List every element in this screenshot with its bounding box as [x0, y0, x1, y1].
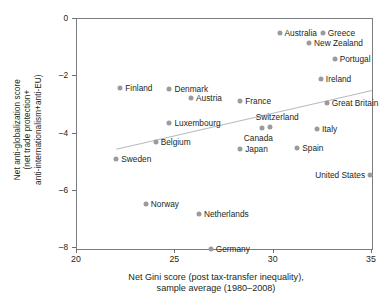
x-axis-tick-label: 25: [169, 254, 179, 264]
x-axis-ticks: 20253035: [0, 0, 387, 307]
x-axis-tick-label: 30: [268, 254, 278, 264]
scatter-plot-figure: Net anti-globalization score (net trade …: [0, 0, 387, 307]
x-axis-tick-mark: [371, 249, 372, 253]
x-axis-tick-mark: [76, 249, 77, 253]
x-axis-tick-label: 35: [366, 254, 376, 264]
x-axis-title: Net Gini score (post tax-transfer inequa…: [56, 272, 376, 295]
x-axis-title-line-2: sample average (1980–2008): [56, 283, 376, 294]
x-axis-tick-mark: [273, 249, 274, 253]
x-axis-title-line-1: Net Gini score (post tax-transfer inequa…: [56, 272, 376, 283]
x-axis-tick-label: 20: [71, 254, 81, 264]
x-axis-tick-mark: [174, 249, 175, 253]
